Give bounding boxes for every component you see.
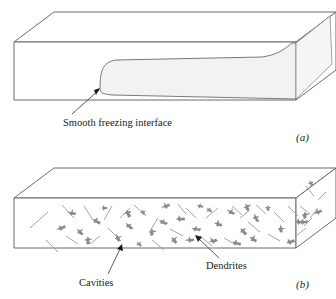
freezing-diagram: [0, 0, 336, 299]
callout-cavities: Cavities: [79, 277, 113, 288]
callout-dendrites: Dendrites: [206, 260, 247, 271]
slab-a-top-face: [14, 12, 336, 42]
slab-b-top-face: [14, 168, 336, 198]
diagram-canvas: [0, 0, 336, 299]
panel-label-b: (b): [296, 278, 309, 290]
callout-smooth-freezing-interface: Smooth freezing interface: [63, 117, 172, 128]
panel-a-slab: [14, 12, 336, 100]
panel-label-a: (a): [296, 131, 309, 143]
panel-b-slab: [14, 168, 336, 248]
